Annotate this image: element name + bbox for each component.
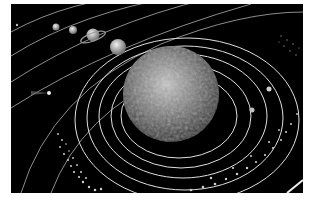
moon-small <box>250 108 255 113</box>
sun <box>123 46 219 142</box>
planet-small-1 <box>53 24 60 31</box>
planet-jupiter <box>110 39 126 55</box>
asteroid-belt-upper-right <box>278 35 299 55</box>
planet-tiny <box>267 87 272 92</box>
solar-system-image <box>11 4 303 193</box>
distant-planet <box>16 24 18 26</box>
solar-system-illustration <box>11 4 303 193</box>
comet <box>31 91 51 95</box>
planet-small-2 <box>69 26 77 34</box>
orbit-edge <box>287 180 303 193</box>
planet-saturn <box>79 29 106 46</box>
